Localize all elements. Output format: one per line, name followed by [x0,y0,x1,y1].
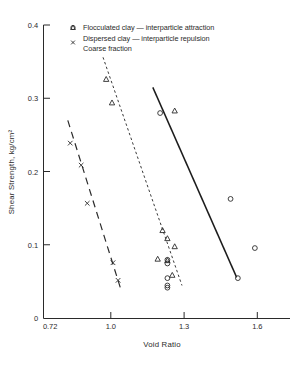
data-point-circle [235,276,240,281]
y-tick-label-04: 0.4 [28,21,38,30]
y-axis-ticks [44,25,51,245]
data-point-circle [165,276,170,281]
y-tick-label-02: 0.2 [28,168,38,177]
data-point-x [68,141,73,146]
data-point-triangle [155,256,160,261]
trendline-dashed [68,120,121,290]
data-point-triangle [172,244,177,249]
data-series-layer [68,57,257,290]
data-point-circle [158,111,163,116]
data-point-triangle [104,76,109,81]
series-2 [68,120,121,290]
x-tick-label-10: 1.0 [106,322,116,331]
legend-label-flocculated: Flocculated clay — interparticle attract… [83,23,214,32]
y-tick-label-0: 0 [34,314,38,323]
data-point-triangle [172,108,177,113]
data-point-triangle [109,100,114,105]
data-point-triangle [170,272,175,277]
data-point-triangle [160,228,165,233]
x-tick-label-16: 1.6 [252,322,262,331]
trendline-dotted [103,57,182,285]
x-axis-ticks [111,312,257,319]
legend-label-dispersed: Dispersed clay — interparticle repulsion [83,34,210,43]
y-tick-label-03: 0.3 [28,94,38,103]
legend-marker-x-cross [71,41,75,45]
series-1 [103,57,182,285]
legend-label-coarse: Coarse fraction [83,44,132,53]
scatter-plot: 0.4 0.3 0.2 0.1 0 0.72 1.0 1.3 1.6 Void … [0,0,294,372]
data-point-circle [228,197,233,202]
data-point-x [85,201,90,206]
x-tick-label-072: 0.72 [43,322,57,331]
x-axis-title: Void Ratio [143,340,181,349]
x-tick-label-13: 1.3 [179,322,189,331]
y-tick-label-01: 0.1 [28,241,38,250]
data-point-circle [252,246,257,251]
chart-legend: Flocculated clay — interparticle attract… [71,23,215,53]
data-point-x [79,163,84,168]
chart-figure: 0.4 0.3 0.2 0.1 0 0.72 1.0 1.3 1.6 Void … [0,0,294,372]
trendline-solid [153,87,237,277]
y-axis-title: Shear Strength, kg/cm² [7,130,16,215]
